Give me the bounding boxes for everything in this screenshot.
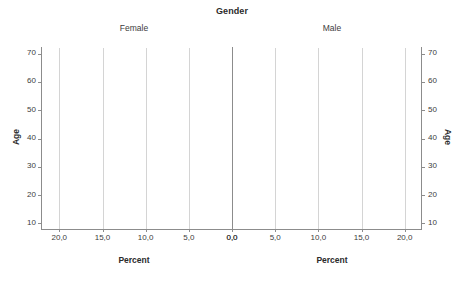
y-tick-label-left-60: 60	[8, 76, 36, 85]
y-tick-label-left-50: 50	[8, 105, 36, 114]
y-tick-mark-right-50	[422, 110, 425, 111]
gridline-male-20,0	[405, 48, 406, 229]
y-tick-mark-left-40	[38, 139, 41, 140]
y-tick-mark-right-30	[422, 167, 425, 168]
x-tick-label-male-20,0: 20,0	[385, 233, 425, 242]
male-x-axis-title: Percent	[290, 255, 374, 265]
population-pyramid-chart: Gender Female Male 101020203030404050506…	[0, 0, 464, 287]
y-tick-label-left-70: 70	[8, 48, 36, 57]
panel-label-male: Male	[290, 23, 374, 33]
center-axis-line	[232, 47, 233, 230]
gridline-male-10,0	[318, 48, 319, 229]
x-tick-mark-female-5,0	[189, 229, 190, 232]
left-axis-line	[41, 47, 42, 230]
y-tick-label-right-30: 30	[428, 161, 456, 170]
male-x-axis-line	[231, 229, 422, 230]
x-tick-mark-male-20,0	[405, 229, 406, 232]
y-tick-mark-left-20	[38, 195, 41, 196]
gridline-female-10,0	[146, 48, 147, 229]
x-tick-label-female-20,0: 20,0	[39, 233, 79, 242]
x-tick-label-female-10,0: 10,0	[126, 233, 166, 242]
gridline-male-15,0	[362, 48, 363, 229]
y-tick-label-right-70: 70	[428, 48, 456, 57]
gridline-female-20,0	[59, 48, 60, 229]
x-tick-label-female-5,0: 5,0	[169, 233, 209, 242]
y-tick-mark-right-70	[422, 54, 425, 55]
x-tick-label-male-10,0: 10,0	[298, 233, 338, 242]
right-y-axis-title: Age	[443, 117, 453, 157]
y-tick-label-right-10: 10	[428, 218, 456, 227]
left-y-axis-title: Age	[11, 117, 21, 157]
y-tick-mark-left-60	[38, 82, 41, 83]
y-tick-mark-right-10	[422, 223, 425, 224]
y-tick-mark-left-10	[38, 223, 41, 224]
y-tick-label-right-50: 50	[428, 105, 456, 114]
x-tick-label-male-0,0: 0,0	[212, 233, 252, 242]
x-tick-mark-male-5,0	[275, 229, 276, 232]
x-tick-mark-male-15,0	[362, 229, 363, 232]
gridline-female-5,0	[189, 48, 190, 229]
x-tick-mark-male-0,0	[232, 229, 233, 232]
x-tick-mark-female-15,0	[103, 229, 104, 232]
x-tick-mark-female-20,0	[59, 229, 60, 232]
female-x-axis-line	[41, 229, 232, 230]
y-tick-mark-right-20	[422, 195, 425, 196]
y-tick-mark-left-50	[38, 110, 41, 111]
y-tick-mark-left-30	[38, 167, 41, 168]
chart-title: Gender	[0, 6, 464, 16]
gridline-male-5,0	[275, 48, 276, 229]
x-tick-label-male-5,0: 5,0	[255, 233, 295, 242]
y-tick-mark-right-60	[422, 82, 425, 83]
y-tick-label-right-20: 20	[428, 190, 456, 199]
female-x-axis-title: Percent	[92, 255, 176, 265]
x-tick-label-male-15,0: 15,0	[342, 233, 382, 242]
x-tick-mark-male-10,0	[318, 229, 319, 232]
y-tick-label-right-60: 60	[428, 76, 456, 85]
y-tick-label-left-30: 30	[8, 161, 36, 170]
y-tick-label-left-20: 20	[8, 190, 36, 199]
y-tick-mark-right-40	[422, 139, 425, 140]
gridline-female-15,0	[103, 48, 104, 229]
x-tick-label-female-15,0: 15,0	[83, 233, 123, 242]
y-tick-mark-left-70	[38, 54, 41, 55]
panel-label-female: Female	[92, 23, 176, 33]
x-tick-mark-female-10,0	[146, 229, 147, 232]
y-tick-label-left-10: 10	[8, 218, 36, 227]
